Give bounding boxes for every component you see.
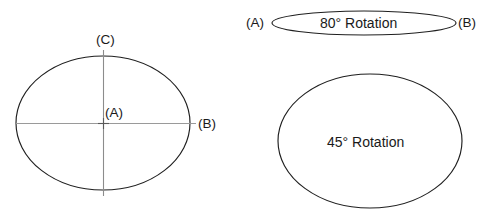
diagram-vector-layer	[0, 0, 488, 222]
label-forty-five-degree-rotation: 45° Rotation	[327, 135, 404, 149]
label-flat-right-vertex: (B)	[458, 16, 476, 30]
label-main-right-vertex: (B)	[198, 117, 216, 131]
label-main-center: (A)	[105, 106, 123, 120]
diagram-canvas: (C) (A) (B) (A) (B) 80° Rotation 45° Rot…	[0, 0, 488, 222]
reference-ellipse-group	[16, 50, 196, 196]
label-flat-left-vertex: (A)	[246, 16, 264, 30]
label-main-top-vertex: (C)	[96, 33, 115, 47]
label-eighty-degree-rotation: 80° Rotation	[320, 16, 397, 30]
